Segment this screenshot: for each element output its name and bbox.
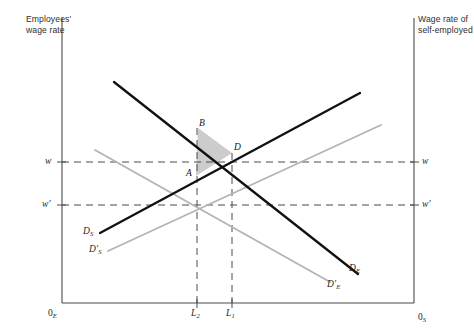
origin-label-right-sub: S <box>423 316 427 323</box>
curve-label-D-S: DS <box>83 226 93 238</box>
point-label-B: B <box>199 118 205 130</box>
curve-label-D-E-base: D <box>349 263 356 273</box>
economics-diagram: Employees' wage rate Wage rate of self-e… <box>0 0 474 335</box>
left-axis-title-line2: wage rate <box>26 25 71 36</box>
wage-label-right-wprime-mark: ′ <box>428 199 430 209</box>
curve-label-D-E-prime-base: D <box>327 279 334 289</box>
wage-label-right-w: w <box>422 156 428 168</box>
origin-label-left-sub: E <box>53 312 57 319</box>
wage-label-right-w-prime-row: w′ <box>422 199 431 211</box>
axis-ticks <box>57 162 419 308</box>
quantity-label-L2-sub: 2 <box>196 312 199 319</box>
origin-label-left: 0E <box>48 308 57 320</box>
right-axis-title-line1: Wage rate of <box>418 14 473 25</box>
curve-D-S <box>100 93 360 233</box>
original-curves <box>100 82 360 274</box>
curve-D-S-prime <box>108 125 381 251</box>
curve-label-D-S-base: D <box>83 226 90 236</box>
curve-label-D-S-sub: S <box>90 230 93 237</box>
wage-label-left-w: w <box>45 156 51 168</box>
wage-label-left-wprime-mark: ′ <box>48 199 50 209</box>
diagram-canvas <box>0 0 474 335</box>
point-label-A: A <box>186 168 192 180</box>
left-axis-title-line1: Employees' <box>26 14 71 25</box>
curve-label-D-E-prime-sub: E <box>336 283 340 290</box>
dashed-guides <box>62 128 414 303</box>
curve-label-D-S-prime-base: D <box>89 244 96 254</box>
quantity-label-L1: L1 <box>226 308 235 320</box>
left-axis-title: Employees' wage rate <box>26 14 71 35</box>
origin-label-right: 0S <box>418 312 426 324</box>
wage-label-left-w-text: w <box>45 156 51 166</box>
curve-label-D-E-sub: E <box>356 267 360 274</box>
curve-label-D-E: DE <box>349 263 360 275</box>
curve-label-D-S-prime-sub: S <box>98 248 101 255</box>
wage-label-right-w-text: w <box>422 156 428 166</box>
curve-label-D-S-prime: D′S <box>89 244 102 256</box>
right-axis-title-line2: self-employed <box>418 25 473 36</box>
right-axis-title: Wage rate of self-employed <box>418 14 473 35</box>
quantity-label-L2: L2 <box>191 308 200 320</box>
point-label-D: D <box>234 142 241 154</box>
quantity-label-L1-sub: 1 <box>231 312 234 319</box>
curve-label-D-E-prime: D′E <box>327 279 340 291</box>
curve-D-E <box>114 82 358 274</box>
wage-label-left-w-prime-row: w′ <box>42 199 51 211</box>
